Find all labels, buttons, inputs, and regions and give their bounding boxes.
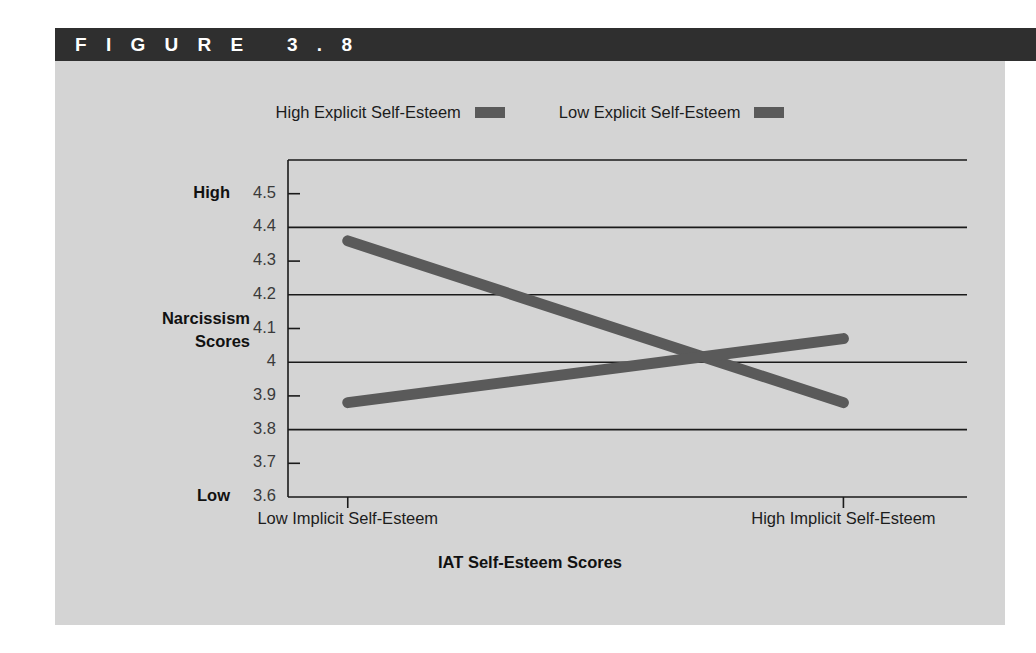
- figure-header-bar: F I G U R E 3 . 8: [55, 28, 1036, 61]
- y-axis-tick-label: 4.4: [216, 216, 276, 235]
- figure-number-label: F I G U R E 3 . 8: [55, 34, 359, 56]
- y-axis-tick-label: 3.8: [216, 419, 276, 438]
- x-axis-title: IAT Self-Esteem Scores: [55, 553, 1005, 572]
- series-line-high-explicit: [348, 241, 844, 403]
- x-axis-category-label-high: High Implicit Self-Esteem: [723, 509, 963, 528]
- legend-item-high-explicit: High Explicit Self-Esteem: [276, 103, 505, 122]
- figure-container: F I G U R E 3 . 8 High Explicit Self-Est…: [0, 0, 1036, 653]
- series-line-low-explicit: [348, 339, 844, 403]
- legend-label-high-explicit: High Explicit Self-Esteem: [276, 103, 461, 122]
- y-axis-high-label: High: [110, 183, 230, 202]
- y-axis-low-label: Low: [110, 486, 230, 505]
- y-axis-tick-label: 4.3: [216, 250, 276, 269]
- plot-area: [288, 160, 967, 497]
- y-axis-tick-label: 4: [216, 351, 276, 370]
- y-axis-tick-label: 4.2: [216, 284, 276, 303]
- x-axis-category-label-low: Low Implicit Self-Esteem: [228, 509, 468, 528]
- y-axis-tick-label: 3.7: [216, 452, 276, 471]
- legend-swatch-high-explicit: [475, 107, 505, 118]
- legend-item-low-explicit: Low Explicit Self-Esteem: [559, 103, 785, 122]
- y-axis-title-line1: Narcissism: [70, 307, 250, 330]
- chart-panel: High Explicit Self-Esteem Low Explicit S…: [55, 61, 1005, 625]
- y-axis-title: Narcissism Scores: [70, 307, 250, 354]
- chart-svg: [288, 160, 967, 497]
- legend-label-low-explicit: Low Explicit Self-Esteem: [559, 103, 741, 122]
- chart-legend: High Explicit Self-Esteem Low Explicit S…: [55, 103, 1005, 122]
- legend-swatch-low-explicit: [754, 107, 784, 118]
- y-axis-tick-label: 3.9: [216, 385, 276, 404]
- y-axis-title-line2: Scores: [70, 330, 250, 353]
